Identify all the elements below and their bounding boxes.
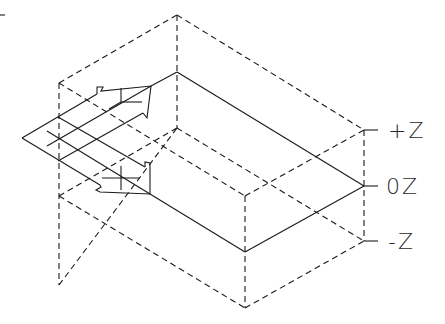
zero-z-plane — [150, 72, 364, 252]
plus-z-label: +Z — [388, 120, 426, 142]
zero-z-label: 0Z — [386, 176, 419, 198]
minus-z-label: -Z — [388, 231, 415, 253]
dashed-bounding-box — [59, 15, 364, 308]
diagram-canvas: +Z 0Z -Z — [0, 0, 445, 324]
isometric-diagram — [0, 0, 445, 324]
z-axis-ticks — [364, 130, 378, 241]
